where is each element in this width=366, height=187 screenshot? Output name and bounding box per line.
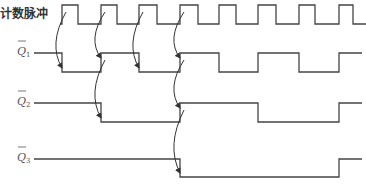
trigger-arrow	[95, 60, 105, 118]
signal-label-q2-letter: Q	[17, 95, 26, 108]
waveform-q1-bar	[34, 53, 362, 72]
signal-label-q2-bar: Q 2	[17, 91, 30, 109]
waveform-count-pulse	[60, 5, 366, 24]
trigger-arrows	[56, 12, 184, 173]
trigger-arrow	[133, 12, 143, 68]
signal-label-q1-subscript: 1	[26, 51, 30, 59]
signal-q1-bar: Q 1	[17, 41, 362, 72]
signal-label-q3-bar: Q 3	[17, 147, 30, 165]
timing-diagram: 计数脉冲 Q 1 Q 2 Q 3	[0, 0, 366, 187]
signal-label-q1-letter: Q	[17, 45, 26, 58]
trigger-arrow	[56, 12, 66, 68]
waveform-q3-bar	[34, 159, 362, 177]
trigger-arrow	[174, 60, 184, 108]
signal-label-q3-letter: Q	[17, 151, 26, 164]
trigger-arrow	[174, 110, 184, 173]
signal-q3-bar: Q 3	[17, 147, 362, 177]
trigger-arrow	[95, 12, 105, 58]
signal-label-q2-subscript: 2	[26, 101, 30, 109]
trigger-arrow	[174, 12, 184, 58]
signal-label-count-pulse: 计数脉冲	[0, 6, 48, 21]
signal-label-q3-subscript: 3	[26, 157, 30, 165]
signal-label-q1-bar: Q 1	[17, 41, 30, 59]
signal-count-pulse: 计数脉冲	[0, 5, 366, 24]
signal-q2-bar: Q 2	[17, 91, 362, 122]
waveform-q2-bar	[34, 103, 362, 122]
